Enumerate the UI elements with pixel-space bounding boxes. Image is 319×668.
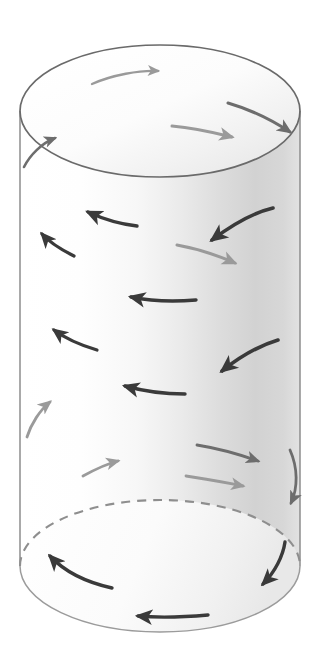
cylinder-body-group bbox=[20, 45, 300, 632]
bottom-face-arrow-center-dark bbox=[138, 615, 208, 617]
cylinder-circulation-figure bbox=[0, 0, 319, 668]
cylinder-diagram-svg bbox=[0, 0, 319, 668]
